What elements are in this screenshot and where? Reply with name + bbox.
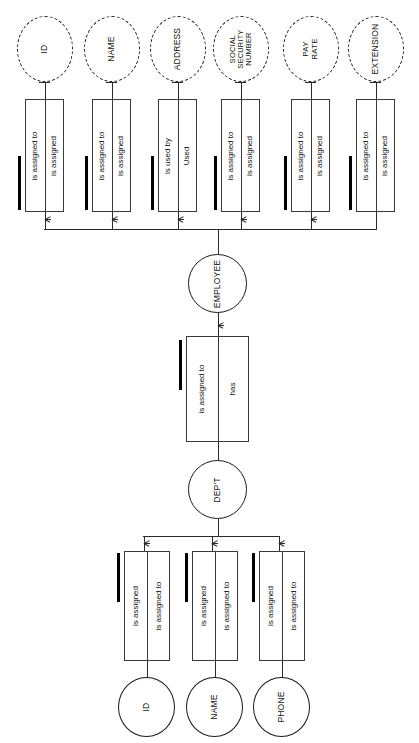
attribute-circle-id: ID <box>17 16 73 82</box>
predicate-cell-far-dept-name: is assigned to <box>215 552 237 660</box>
uniqueness-bar-address <box>151 156 154 210</box>
attribute-label-ssn: SOCIAL SECURITY NUMBER <box>229 30 253 69</box>
predicate-cell-near-ssn: is assigned to <box>222 100 241 211</box>
predicate-cell-near-id: is assigned to <box>26 100 45 211</box>
attribute-label-extension: EXTENSION <box>371 24 380 75</box>
predicate-text-near-dept-id: is assigned <box>132 586 141 626</box>
stem-address <box>178 82 179 99</box>
predicate-cell-far-dept-phone: is assigned to <box>282 552 304 660</box>
predicate-text-near-ssn: is assigned to <box>227 131 236 180</box>
predicate-box-dept-id[interactable]: is assigned is assigned to <box>124 551 170 661</box>
predicate-text-far-employee-dept: has <box>229 383 238 396</box>
uniqueness-bar-ssn <box>214 156 217 210</box>
predicate-text-far-name: is assigned <box>117 135 126 175</box>
predicate-cell-near-address: is used by <box>159 100 178 211</box>
predicate-text-far-dept-id: is assigned to <box>154 582 163 631</box>
bus-to-employee <box>218 229 219 255</box>
predicate-cell-near-extension: is assigned to <box>357 100 376 211</box>
predicate-text-far-ssn: is assigned <box>246 135 255 175</box>
predicate-text-near-employee-dept: is assigned to <box>198 365 207 414</box>
attribute-circle-extension: EXTENSION <box>348 16 404 82</box>
drop-pay-rate <box>311 212 312 230</box>
predicate-text-near-address: is used by <box>164 137 173 173</box>
attribute-label-dept-phone: PHONE <box>277 691 286 722</box>
predicate-text-far-pay-rate: is assigned <box>316 135 325 175</box>
predicate-box-id[interactable]: is assigned to is assigned <box>25 99 64 212</box>
predicate-box-ssn[interactable]: is assigned to is assigned <box>221 99 260 212</box>
predicate-text-far-dept-phone: is assigned to <box>289 582 298 631</box>
attribute-label-address: ADDRESS <box>173 28 182 71</box>
attribute-circle-pay-rate: PAY RATE <box>283 16 339 82</box>
stem-cap-extension <box>370 82 381 83</box>
attribute-circle-ssn: SOCIAL SECURITY NUMBER <box>213 16 269 82</box>
stem-cap-pay-rate <box>305 82 316 83</box>
predicate-box-dept-phone[interactable]: is assigned is assigned to <box>259 551 305 661</box>
stem-extension <box>376 82 377 99</box>
uniqueness-bar-dept-name <box>185 553 188 602</box>
ssn-line-3: NUMBER <box>244 32 253 65</box>
stem-ssn <box>241 82 242 99</box>
predicate-cell-far-ssn: is assigned <box>241 100 260 211</box>
attribute-circle-name: NAME <box>84 16 140 82</box>
stem-cap-ssn <box>235 82 246 83</box>
predicate-cell-far-name: is assigned <box>112 100 131 211</box>
uniqueness-bar-name <box>85 156 88 210</box>
pay-rate-line-2: RATE <box>310 38 319 60</box>
predicate-cell-far-dept-id: is assigned to <box>147 552 169 660</box>
uniqueness-bar-id <box>18 156 21 210</box>
predicate-cell-near-dept-id: is assigned <box>125 552 147 660</box>
predicate-box-extension[interactable]: is assigned to is assigned <box>356 99 395 212</box>
drop-ssn <box>241 212 242 230</box>
predicate-cell-near-dept-phone: is assigned <box>260 552 282 660</box>
uniqueness-bar-extension <box>349 156 352 210</box>
predicate-cell-near-employee-dept: is assigned to <box>187 337 218 441</box>
attribute-label-pay-rate: PAY RATE <box>302 38 319 60</box>
entity-label-employee: EMPLOYEE <box>213 259 222 307</box>
stem-name <box>112 82 113 99</box>
entity-circle-employee: EMPLOYEE <box>188 254 247 313</box>
stem-dept-id <box>147 661 148 678</box>
predicate-box-address[interactable]: is used by Used <box>158 99 197 212</box>
entity-circle-dept: DEP'T <box>188 460 247 519</box>
stem-cap-address <box>172 82 183 83</box>
drop-id <box>45 212 46 230</box>
uniqueness-bar-employee-dept <box>179 340 182 390</box>
drop-extension <box>376 212 377 230</box>
predicate-text-far-extension: is assigned <box>381 135 390 175</box>
attribute-circle-dept-phone: PHONE <box>253 677 310 737</box>
stem-dept-name <box>215 661 216 678</box>
attribute-label-id: ID <box>40 45 49 54</box>
predicate-box-dept-name[interactable]: is assigned is assigned to <box>192 551 238 661</box>
predicate-box-name[interactable]: is assigned to is assigned <box>92 99 131 212</box>
predicate-cell-near-dept-name: is assigned <box>193 552 215 660</box>
attribute-circle-address: ADDRESS <box>150 16 206 82</box>
uniqueness-bar-dept-phone <box>252 553 255 602</box>
attribute-label-dept-name: NAME <box>210 694 219 719</box>
predicate-cell-far-id: is assigned <box>45 100 64 211</box>
attribute-circle-dept-name: NAME <box>186 677 243 737</box>
attribute-circle-dept-id: ID <box>118 677 175 737</box>
stem-cap-id <box>39 82 50 83</box>
entity-label-dept: DEP'T <box>213 477 222 502</box>
center-predicate-to-dept <box>218 442 219 461</box>
predicate-box-pay-rate[interactable]: is assigned to is assigned <box>291 99 330 212</box>
predicate-text-near-extension: is assigned to <box>362 131 371 180</box>
predicate-cell-far-pay-rate: is assigned <box>311 100 330 211</box>
predicate-text-near-id: is assigned to <box>31 131 40 180</box>
predicate-text-near-pay-rate: is assigned to <box>297 131 306 180</box>
uniqueness-bar-dept-id <box>117 553 120 602</box>
er-diagram-canvas: ID NAME ADDRESS SOCIAL SECURITY NUMBER P… <box>0 0 419 743</box>
predicate-cell-far-extension: is assigned <box>376 100 395 211</box>
stem-pay-rate <box>311 82 312 99</box>
drop-address <box>178 212 179 230</box>
predicate-text-far-id: is assigned <box>50 135 59 175</box>
drop-name <box>112 212 113 230</box>
attribute-label-name: NAME <box>107 36 116 61</box>
stem-cap-name <box>106 82 117 83</box>
predicate-box-employee-dept[interactable]: is assigned to has <box>186 336 249 442</box>
predicate-cell-far-address: Used <box>178 100 197 211</box>
dept-to-bus <box>218 518 219 537</box>
stem-id <box>45 82 46 99</box>
stem-dept-phone <box>282 661 283 678</box>
employee-attribute-bus <box>44 229 376 230</box>
